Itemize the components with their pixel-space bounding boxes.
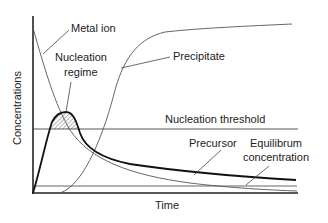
- equilibrium-label-2: concentration: [243, 151, 309, 163]
- nucleation-regime-leader: [66, 82, 71, 112]
- equilibrium-label-1: Equilibrum: [250, 137, 302, 149]
- precipitate-label: Precipitate: [173, 50, 225, 62]
- nucleation-diagram: Metal ion Nucleation regime Precipitate …: [0, 0, 328, 223]
- metal-ion-label: Metal ion: [71, 22, 116, 34]
- precursor-leader: [194, 150, 221, 175]
- nucleation-regime-label-1: Nucleation: [55, 51, 107, 63]
- nucleation-regime-label-2: regime: [64, 66, 98, 78]
- x-axis-label: Time: [155, 199, 179, 211]
- y-axis-label: Concentrations: [11, 71, 23, 145]
- equilibrium-leader: [246, 166, 269, 185]
- nucleation-threshold-label: Nucleation threshold: [165, 113, 265, 125]
- precursor-label: Precursor: [189, 137, 237, 149]
